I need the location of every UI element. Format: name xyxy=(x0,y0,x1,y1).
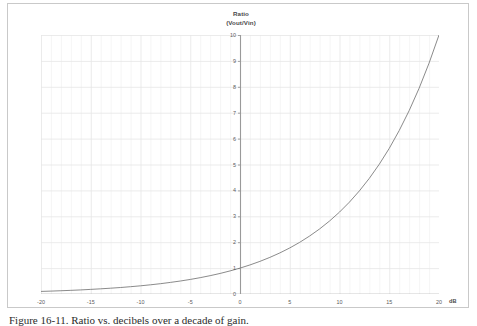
x-tick-label: -15 xyxy=(87,299,95,305)
x-tick-label: -5 xyxy=(188,299,193,305)
x-tick-label: 5 xyxy=(288,299,291,305)
x-tick-label: -20 xyxy=(37,299,45,305)
plot-area: 012345678910 -20-15-10-505101520 dB xyxy=(41,35,439,294)
figure-frame: Ratio (Vout/Vin) 012345678910 -20-15-10-… xyxy=(7,3,469,308)
chart-svg xyxy=(41,35,439,294)
x-axis-title: dB xyxy=(449,298,456,304)
x-tick-label: 0 xyxy=(239,299,242,305)
x-tick-label: 20 xyxy=(436,299,442,305)
figure-page: Ratio (Vout/Vin) 012345678910 -20-15-10-… xyxy=(0,0,477,326)
chart-title: Ratio (Vout/Vin) xyxy=(8,9,468,27)
chart-title-line-2: (Vout/Vin) xyxy=(14,18,468,27)
figure-caption: Figure 16-11. Ratio vs. decibels over a … xyxy=(9,314,469,326)
x-tick-label: 10 xyxy=(337,299,343,305)
x-tick-label: 15 xyxy=(386,299,392,305)
x-tick-label: -10 xyxy=(137,299,145,305)
chart-title-line-1: Ratio xyxy=(14,9,468,18)
